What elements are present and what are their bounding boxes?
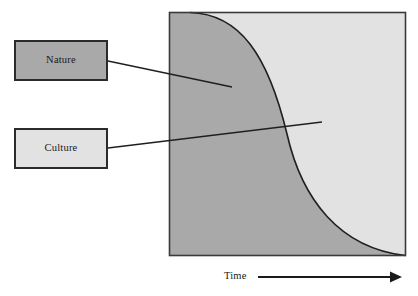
legend-label-nature: Nature [46,55,76,66]
nature-culture-diagram: Nature Culture Time [0,0,418,296]
legend-label-culture: Culture [45,143,78,154]
x-axis-label: Time [224,270,247,281]
right-arrow-icon [390,272,402,283]
legend-box-culture[interactable]: Culture [14,128,108,169]
legend-box-nature[interactable]: Nature [14,40,108,81]
